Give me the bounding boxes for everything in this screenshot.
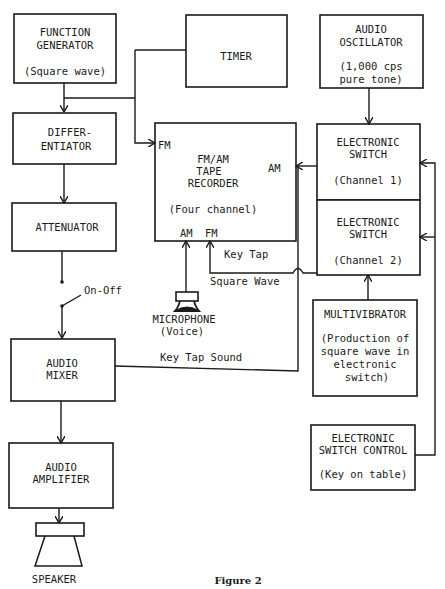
function-generator-block: FUNCTION GENERATOR (Square wave): [14, 14, 116, 83]
function-generator-note: (Square wave): [24, 65, 106, 77]
on-off-label: On-Off: [84, 284, 122, 296]
figure-caption: Figure 2: [214, 575, 261, 586]
multivibrator-note-4: switch): [345, 371, 389, 383]
tape-recorder-block: FM/AM TAPE RECORDER (Four channel) FM AM…: [155, 123, 296, 241]
square-wave-label: Square Wave: [210, 275, 280, 287]
tape-recorder-note: (Four channel): [169, 203, 258, 215]
tape-recorder-label-2: TAPE: [196, 165, 221, 177]
attenuator-label: ATTENUATOR: [35, 221, 99, 233]
recorder-fm-bottom-label: FM: [205, 227, 218, 239]
audio-oscillator-note: (1,000 cps: [339, 60, 402, 72]
wire-to-recorder-fm: [135, 50, 155, 143]
multivibrator-note: (Production of: [321, 332, 410, 344]
switch-control-block: ELECTRONIC SWITCH CONTROL (Key on table): [311, 425, 415, 490]
switch-1-label-2: SWITCH: [349, 148, 387, 160]
timer-block: TIMER: [186, 15, 287, 87]
timer-label: TIMER: [220, 50, 252, 62]
audio-mixer-label-2: MIXER: [46, 369, 78, 381]
audio-mixer-block: AUDIO MIXER: [11, 339, 115, 401]
speaker-icon: [35, 523, 84, 566]
tape-recorder-label-3: RECORDER: [188, 177, 239, 189]
switch-contact-top: [60, 280, 64, 284]
audio-oscillator-label: AUDIO: [355, 23, 387, 35]
audio-amplifier-label: AUDIO: [45, 461, 77, 473]
electronic-switch-2-block: ELECTRONIC SWITCH (Channel 2): [317, 200, 420, 275]
switch-1-label: ELECTRONIC: [336, 136, 399, 148]
differentiator-block: DIFFER- ENTIATOR: [13, 113, 116, 164]
speaker-label: SPEAKER: [32, 573, 77, 585]
key-tap-sound-label: Key Tap Sound: [160, 351, 242, 363]
switch-2-note: (Channel 2): [333, 254, 403, 266]
audio-oscillator-block: AUDIO OSCILLATOR (1,000 cps pure tone): [320, 15, 423, 88]
multivibrator-note-2: square wave in: [321, 345, 410, 357]
switch-2-label: ELECTRONIC: [336, 216, 399, 228]
function-generator-label: FUNCTION: [40, 26, 91, 38]
on-off-switch-lever: [62, 295, 81, 306]
multivibrator-note-3: electronic: [333, 358, 396, 370]
attenuator-block: ATTENUATOR: [12, 203, 116, 251]
microphone-note: (Voice): [160, 325, 204, 337]
switch-2-label-2: SWITCH: [349, 228, 387, 240]
electronic-switch-1-block: ELECTRONIC SWITCH (Channel 1): [317, 124, 420, 200]
audio-oscillator-label-2: OSCILLATOR: [339, 36, 403, 48]
audio-oscillator-note-2: pure tone): [339, 73, 402, 85]
switch-1-note: (Channel 1): [333, 174, 403, 186]
block-diagram: FUNCTION GENERATOR (Square wave) TIMER A…: [0, 0, 445, 589]
tape-recorder-label: FM/AM: [197, 153, 229, 165]
switch-control-note: (Key on table): [319, 468, 408, 480]
microphone-icon: [175, 292, 199, 311]
audio-amplifier-label-2: AMPLIFIER: [33, 473, 91, 485]
microphone-label: MICROPHONE: [152, 313, 215, 325]
multivibrator-label: MULTIVIBRATOR: [324, 308, 407, 320]
recorder-am-bottom-label: AM: [180, 227, 193, 239]
audio-mixer-label: AUDIO: [46, 357, 78, 369]
differentiator-label-2: ENTIATOR: [41, 140, 92, 152]
key-tap-label: Key Tap: [224, 248, 268, 260]
differentiator-label: DIFFER-: [48, 126, 92, 138]
switch-control-label-2: SWITCH CONTROL: [319, 444, 408, 456]
function-generator-label-2: GENERATOR: [37, 39, 95, 51]
recorder-am-input-label: AM: [268, 162, 281, 174]
switch-control-label: ELECTRONIC: [331, 432, 394, 444]
recorder-fm-input-label: FM: [158, 139, 171, 151]
audio-amplifier-block: AUDIO AMPLIFIER: [9, 443, 113, 508]
multivibrator-block: MULTIVIBRATOR (Production of square wave…: [313, 300, 417, 396]
